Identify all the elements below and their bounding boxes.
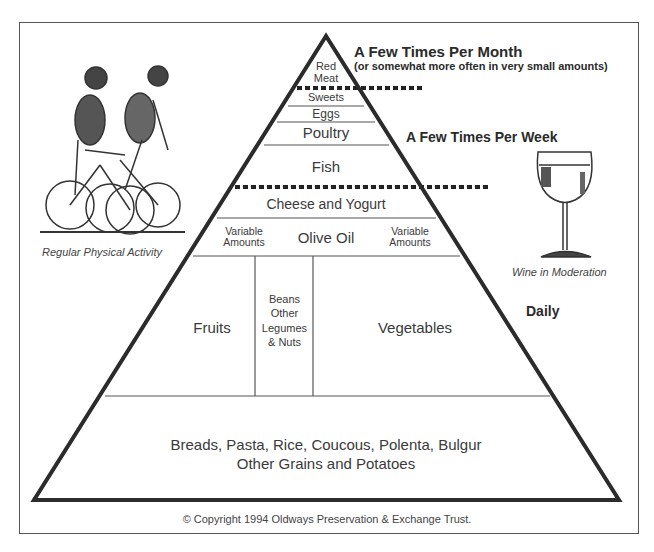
tier-olive-oil: Olive Oil	[286, 230, 366, 246]
beans-line4: & Nuts	[256, 335, 313, 349]
tier-fruits: Fruits	[180, 320, 244, 336]
caption-wine: Wine in Moderation	[512, 266, 607, 278]
beans-line2: Other	[256, 306, 313, 320]
variable-left-line2: Amounts	[214, 237, 274, 248]
tier-red-meat-line1: Red	[306, 61, 346, 73]
grains-line2: Other Grains and Potatoes	[96, 455, 556, 474]
copyright: © Copyright 1994 Oldways Preservation & …	[0, 513, 654, 525]
beans-line3: Legumes	[256, 321, 313, 335]
tier-fish: Fish	[266, 159, 386, 175]
tier-variable-right: Variable Amounts	[380, 226, 440, 248]
cyclists-icon	[40, 66, 185, 234]
grains-line1: Breads, Pasta, Rice, Coucous, Polenta, B…	[96, 436, 556, 455]
beans-line1: Beans	[256, 292, 313, 306]
tier-cheese-yogurt: Cheese and Yogurt	[226, 197, 426, 212]
tier-beans-legumes-nuts: Beans Other Legumes & Nuts	[256, 292, 313, 349]
tier-red-meat: Red Meat	[306, 61, 346, 84]
frequency-monthly: A Few Times Per Month	[354, 43, 522, 60]
variable-right-line2: Amounts	[380, 237, 440, 248]
tier-poultry: Poultry	[276, 125, 376, 141]
wine-glass-icon	[537, 152, 592, 257]
tier-red-meat-line2: Meat	[306, 73, 346, 85]
frequency-daily: Daily	[526, 303, 559, 319]
caption-physical-activity: Regular Physical Activity	[42, 246, 162, 258]
tier-vegetables: Vegetables	[340, 320, 490, 336]
frequency-monthly-note: (or somewhat more often in very small am…	[354, 60, 608, 72]
frequency-weekly: A Few Times Per Week	[406, 129, 557, 145]
tier-eggs: Eggs	[296, 108, 356, 121]
tier-sweets: Sweets	[296, 92, 356, 104]
tier-variable-left: Variable Amounts	[214, 226, 274, 248]
tier-grains: Breads, Pasta, Rice, Coucous, Polenta, B…	[96, 436, 556, 474]
